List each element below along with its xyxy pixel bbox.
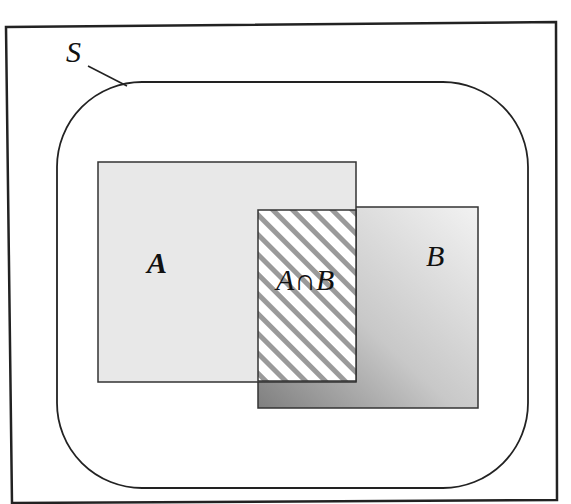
- set-a-label: A: [145, 246, 167, 279]
- set-b-label: B: [426, 239, 444, 272]
- intersection-label: A∩B: [274, 263, 334, 296]
- universe-s-label: S: [66, 35, 81, 68]
- venn-diagram: S A B A∩B: [0, 0, 571, 504]
